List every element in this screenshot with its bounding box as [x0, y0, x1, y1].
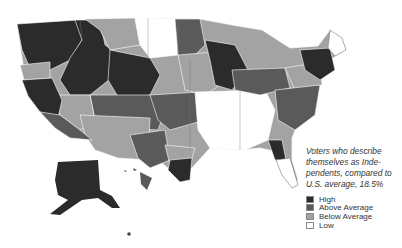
legend-items: High Above Average Below Average Low — [306, 195, 402, 229]
legend-title-line: pendents, compared to — [306, 168, 402, 179]
legend-item-high: High — [306, 195, 402, 204]
legend-title-line: Voters who describe — [306, 146, 402, 157]
region-texas-east — [168, 158, 192, 182]
legend-title: Voters who describe themselves as Inde- … — [306, 146, 402, 190]
legend-swatch — [306, 222, 314, 229]
legend-item-low: Low — [306, 221, 402, 230]
region-alaska — [50, 160, 120, 215]
region-deep-south — [195, 90, 275, 150]
region-texas-west — [130, 130, 170, 168]
alaska-hawaii — [50, 160, 152, 236]
region-hawaii — [124, 168, 152, 190]
region-florida-peninsula — [276, 158, 298, 188]
legend-swatch — [306, 196, 314, 203]
legend-swatch — [306, 204, 314, 211]
legend-item-below-average: Below Average — [306, 212, 402, 221]
legend-label: Low — [319, 221, 334, 230]
legend-item-above-average: Above Average — [306, 204, 402, 213]
map-legend: Voters who describe themselves as Inde- … — [306, 146, 402, 229]
legend-swatch — [306, 213, 314, 220]
island-dot — [127, 232, 131, 236]
legend-title-line: U.S. average, 18.5% — [306, 179, 402, 190]
region-oregon-coast-band — [20, 62, 50, 80]
legend-title-line: themselves as Inde- — [306, 157, 402, 168]
